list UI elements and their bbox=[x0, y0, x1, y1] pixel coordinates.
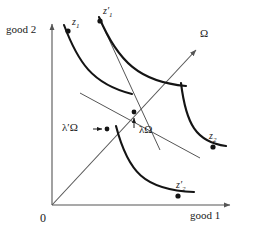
origin-label: 0 bbox=[40, 212, 46, 224]
point-label-z1-prime: z′1 bbox=[103, 6, 113, 19]
point-lambda-omega bbox=[132, 110, 137, 115]
indifference-curve-z1 bbox=[64, 25, 132, 94]
axis-group bbox=[52, 24, 230, 205]
point-label-z2-prime: z′2 bbox=[176, 180, 186, 193]
point-z2-prime bbox=[175, 193, 180, 198]
point-z1 bbox=[65, 28, 70, 33]
indifference-curve-z2 bbox=[181, 83, 226, 146]
point-lambda-prime-omega bbox=[105, 127, 110, 132]
point-label-z2: z2 bbox=[209, 131, 216, 144]
x-axis-label: good 1 bbox=[190, 210, 220, 221]
lambda-omega-label: λΩ bbox=[139, 124, 153, 135]
point-label-z1: z1 bbox=[72, 17, 79, 30]
indifference-curve-z1-prime bbox=[99, 17, 186, 86]
y-axis-label: good 2 bbox=[6, 24, 36, 35]
exchange-economy-diagram: good 2 good 1 0 Ω z1 z′1 z2 z′2 λΩ λ′Ω bbox=[0, 0, 258, 235]
point-z1-prime bbox=[97, 18, 102, 23]
omega-ray-label: Ω bbox=[200, 28, 208, 39]
diagram-canvas bbox=[0, 0, 258, 235]
point-z2 bbox=[210, 144, 215, 149]
lambda-prime-omega-label: λ′Ω bbox=[62, 122, 78, 133]
